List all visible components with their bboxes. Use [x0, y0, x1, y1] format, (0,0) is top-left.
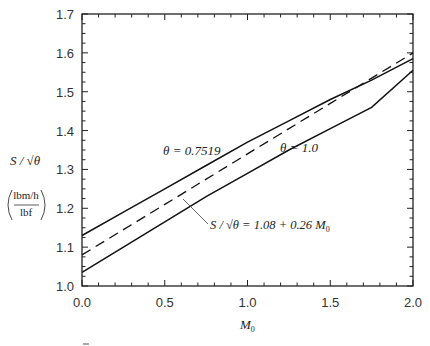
x-tick-label: 0.0: [73, 295, 91, 310]
svg-text:lbf: lbf: [20, 206, 33, 218]
y-tick-label: 1.7: [56, 7, 74, 22]
x-tick-label: 1.5: [321, 295, 339, 310]
x-tick-label: 1.0: [238, 295, 256, 310]
x-axis-label: M0: [239, 317, 255, 334]
chart: 1.01.11.21.31.41.51.61.7 0.00.51.01.52.0…: [0, 0, 430, 346]
annotation-theta-upper: θ = 0.7519: [163, 143, 221, 158]
annotation-formula: S / √θ = 1.08 + 0.26 M0: [210, 218, 330, 234]
x-tick-label: 2.0: [404, 295, 422, 310]
x-tick-label: 0.5: [156, 295, 174, 310]
x-tick-labels: 0.00.51.01.52.0: [73, 295, 422, 310]
y-tick-label: 1.3: [56, 162, 74, 177]
y-tick-label: 1.1: [56, 240, 74, 255]
y-tick-label: 1.2: [56, 201, 74, 216]
y-tick-label: 1.5: [56, 85, 74, 100]
y-axis-label: S / √θ: [10, 153, 41, 168]
y-tick-label: 1.4: [56, 124, 74, 139]
plot-frame: [82, 14, 413, 286]
y-tick-labels: 1.01.11.21.31.41.51.61.7: [56, 7, 74, 294]
annotation-theta-lower: θ = 1.0: [280, 140, 318, 155]
svg-text:lbm/h: lbm/h: [13, 189, 39, 201]
series-lines: [82, 53, 413, 273]
y-axis-units: lbm/h lbf: [8, 189, 45, 220]
series-line-0: [82, 59, 413, 236]
y-tick-label: 1.6: [56, 46, 74, 61]
series-line-1: [82, 70, 413, 272]
right-paren-icon: [41, 190, 45, 220]
y-tick-label: 1.0: [56, 279, 74, 294]
axis-ticks: [82, 14, 413, 286]
left-paren-icon: [8, 190, 12, 220]
